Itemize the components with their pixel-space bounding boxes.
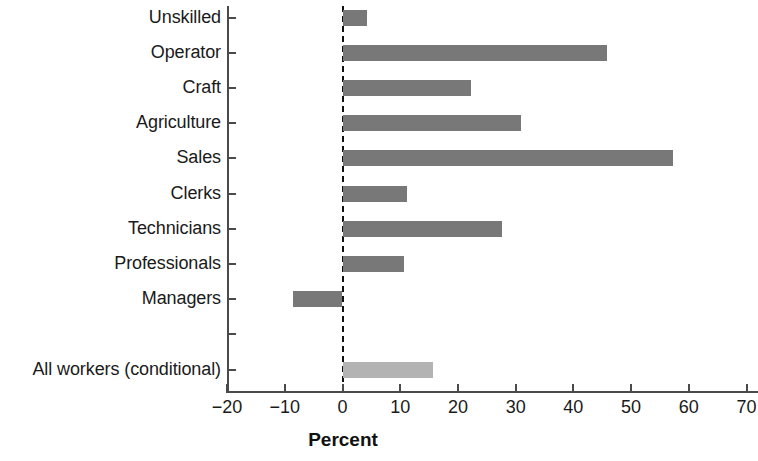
y-axis-label: Agriculture (136, 113, 221, 131)
x-axis-tick (515, 384, 517, 393)
x-axis-line (227, 391, 758, 393)
x-axis-tick (457, 384, 459, 393)
plot-area: UnskilledOperatorCraftAgricultureSalesCl… (0, 0, 758, 461)
x-axis-tick (630, 384, 632, 393)
y-axis-tick (227, 157, 236, 159)
x-axis-tick (399, 384, 401, 393)
bar (343, 186, 407, 202)
x-axis-tick-label: 10 (370, 398, 430, 416)
x-axis-tick-label: 20 (428, 398, 488, 416)
x-axis-tick (746, 384, 748, 393)
x-axis-tick-label: 60 (659, 398, 719, 416)
x-axis-tick (688, 384, 690, 393)
bar (343, 150, 673, 166)
y-axis-tick (227, 298, 236, 300)
y-axis-label: Operator (151, 43, 221, 61)
y-axis-tick (227, 333, 236, 335)
y-axis-tick (227, 87, 236, 89)
y-axis-tick (227, 17, 236, 19)
y-axis-tick (227, 193, 236, 195)
bar (343, 221, 502, 237)
x-axis-tick (226, 384, 228, 393)
y-axis-label: Technicians (128, 219, 221, 237)
x-axis-tick-label: 30 (486, 398, 546, 416)
y-axis-tick (227, 52, 236, 54)
bar (343, 362, 433, 378)
x-axis-tick-label: −10 (255, 398, 315, 416)
y-axis-label: Clerks (171, 184, 221, 202)
x-axis-tick-label: 50 (601, 398, 661, 416)
y-axis-label: Unskilled (149, 8, 221, 26)
bar-chart: UnskilledOperatorCraftAgricultureSalesCl… (0, 0, 758, 461)
bar (343, 80, 472, 96)
y-axis-label: Craft (182, 78, 221, 96)
bar (343, 256, 405, 272)
x-axis-tick-label: 40 (543, 398, 603, 416)
x-axis-tick-label: 0 (313, 398, 373, 416)
x-axis-title: Percent (243, 430, 443, 449)
bar (343, 10, 368, 26)
x-axis-tick-label: −20 (197, 398, 257, 416)
y-axis-label: All workers (conditional) (32, 360, 221, 378)
y-axis-tick (227, 369, 236, 371)
y-axis-tick (227, 122, 236, 124)
y-axis-label: Sales (176, 148, 221, 166)
y-axis-label: Professionals (114, 254, 221, 272)
bar (343, 45, 608, 61)
x-axis-tick (284, 384, 286, 393)
x-axis-tick-label: 70 (717, 398, 758, 416)
y-axis-tick (227, 228, 236, 230)
y-axis-tick (227, 263, 236, 265)
x-axis-tick (342, 384, 344, 393)
x-axis-tick (572, 384, 574, 393)
bar (293, 291, 342, 307)
bar (343, 115, 522, 131)
y-axis-label: Managers (142, 289, 221, 307)
